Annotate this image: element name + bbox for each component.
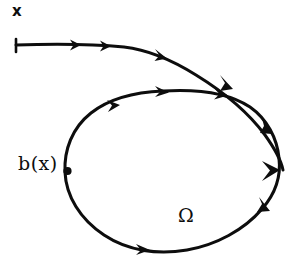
trajectory-arrow-4 [220,75,233,91]
start-point-label: x [12,4,22,19]
bx-point-dot [63,167,71,175]
trajectory-arrowheads [70,40,272,135]
figure-container: x b(x) Ω [0,0,304,264]
vector-field-label: b(x) [18,154,58,173]
bx-point-group [63,167,71,175]
diagram-canvas [0,0,304,264]
region-label: Ω [178,206,194,225]
